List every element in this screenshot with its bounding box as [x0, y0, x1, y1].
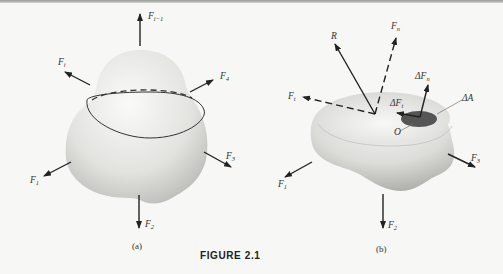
- delta-a-patch: [401, 111, 437, 127]
- figure-canvas: [0, 0, 503, 274]
- label-b-force-f-2: F2: [388, 221, 397, 232]
- label-origin-o: O: [394, 128, 401, 138]
- label-force-f-i-minus-1: Fi−1: [148, 12, 163, 23]
- label-resultant-r: R: [331, 32, 337, 43]
- label-force-f-t: Ft: [288, 92, 296, 103]
- label-b-force-f-3: F3: [471, 154, 480, 165]
- label-delta-f-t: ΔFt: [390, 99, 403, 110]
- label-force-f-i: Fi: [58, 58, 66, 69]
- label-b-force-f-1: F1: [278, 180, 287, 191]
- label-force-f-4: F4: [220, 72, 229, 83]
- panel-a-label: (a): [132, 241, 142, 251]
- label-force-f-1: F1: [30, 176, 39, 187]
- label-force-f-n: Fn: [391, 22, 400, 33]
- figure-caption: FIGURE 2.1: [200, 250, 260, 261]
- label-delta-a: ΔA: [462, 94, 473, 104]
- panel-b-body: [311, 92, 462, 191]
- panel-b-label: (b): [376, 244, 387, 254]
- panel-a-body: [66, 50, 208, 204]
- label-force-f-3: F3: [226, 152, 235, 163]
- label-force-f-2: F2: [145, 220, 154, 231]
- label-delta-f-n: ΔFn: [415, 72, 430, 83]
